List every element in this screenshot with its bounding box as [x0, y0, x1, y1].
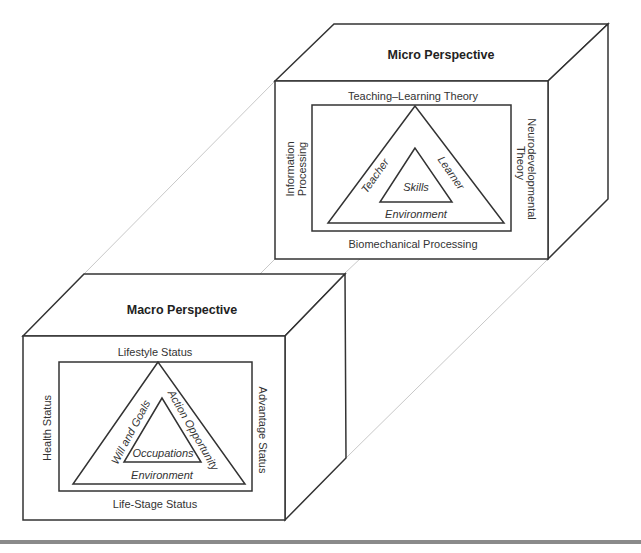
macro-front-face: [23, 336, 285, 520]
perspective-diagram: Micro Perspective Teaching–Learning Theo…: [0, 0, 641, 553]
macro-right-label: Advantage Status: [257, 387, 269, 474]
bottom-rule: [0, 540, 641, 544]
micro-bottom-label: Biomechanical Processing: [348, 238, 477, 250]
macro-left-label: Health Status: [41, 394, 53, 461]
micro-front-face: [275, 81, 548, 259]
micro-skills-label: Skills: [403, 181, 429, 193]
micro-right-label-2: Theory: [515, 146, 527, 181]
micro-title: Micro Perspective: [388, 48, 495, 62]
micro-left-label-2: Processing: [296, 142, 308, 196]
macro-environment-label: Environment: [131, 469, 194, 481]
micro-left-label-1: Information: [284, 141, 296, 196]
micro-environment-label: Environment: [385, 208, 448, 220]
macro-occupations-label: Occupations: [132, 447, 194, 459]
micro-top-label: Teaching–Learning Theory: [348, 90, 479, 102]
macro-title: Macro Perspective: [127, 303, 238, 317]
macro-top-label: Lifestyle Status: [118, 346, 193, 358]
macro-bottom-label: Life-Stage Status: [113, 498, 198, 510]
